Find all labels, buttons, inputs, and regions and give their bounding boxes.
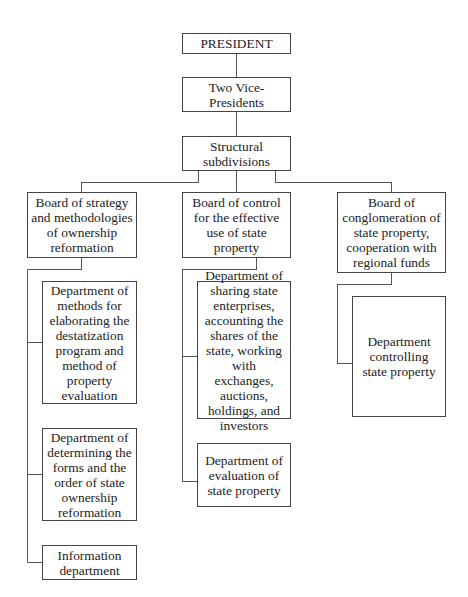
president-box: PRESIDENT bbox=[182, 33, 291, 54]
board-strategy-label: Board of strategy and methodologies of o… bbox=[31, 195, 133, 255]
dept-evaluation-box: Department of evaluation of state proper… bbox=[197, 443, 291, 507]
connector-to-dept-information bbox=[27, 562, 42, 563]
connector-structural-left-horizontal bbox=[81, 182, 199, 183]
dept-methods-box: Department of methods for elaborating th… bbox=[42, 281, 137, 404]
board-control-box: Board of control for the effective use o… bbox=[182, 192, 291, 258]
connector-to-dept-controlling bbox=[337, 363, 352, 364]
connector-to-board-strategy bbox=[81, 182, 82, 192]
structural-subdivisions-box: Structural subdivisions bbox=[182, 136, 291, 171]
connector-president-vp bbox=[236, 54, 237, 77]
connector-board-conglomeration-horizontal bbox=[337, 284, 392, 285]
connector-left-spine bbox=[27, 269, 28, 563]
president-label: PRESIDENT bbox=[200, 36, 272, 51]
connector-to-dept-forms bbox=[27, 474, 42, 475]
dept-information-label: Information department bbox=[46, 548, 133, 578]
connector-structural-right-horizontal bbox=[275, 182, 392, 183]
connector-to-board-conglomeration bbox=[391, 182, 392, 192]
board-conglomeration-box: Board of conglomeration of state propert… bbox=[337, 192, 446, 273]
connector-right-spine bbox=[337, 284, 338, 364]
dept-controlling-box: Department controlling state property bbox=[352, 296, 446, 417]
connector-to-dept-sharing bbox=[182, 356, 197, 357]
connector-to-dept-methods bbox=[27, 342, 42, 343]
dept-evaluation-label: Department of evaluation of state proper… bbox=[201, 453, 287, 498]
dept-sharing-box: Department of sharing state enterprises,… bbox=[197, 281, 291, 419]
dept-methods-label: Department of methods for elaborating th… bbox=[46, 283, 133, 403]
connector-board-strategy-horizontal bbox=[27, 269, 82, 270]
board-strategy-box: Board of strategy and methodologies of o… bbox=[27, 192, 137, 258]
structural-subdivisions-label: Structural subdivisions bbox=[186, 139, 287, 169]
connector-to-dept-evaluation bbox=[182, 481, 197, 482]
connector-to-board-control bbox=[236, 171, 237, 192]
dept-information-box: Information department bbox=[42, 545, 137, 580]
vice-presidents-label: Two Vice-Presidents bbox=[186, 80, 287, 110]
vice-presidents-box: Two Vice-Presidents bbox=[182, 77, 291, 112]
dept-forms-box: Department of determining the forms and … bbox=[42, 428, 137, 521]
board-control-label: Board of control for the effective use o… bbox=[186, 195, 287, 255]
dept-forms-label: Department of determining the forms and … bbox=[46, 430, 133, 520]
board-conglomeration-label: Board of conglomeration of state propert… bbox=[341, 195, 442, 270]
dept-sharing-label: Department of sharing state enterprises,… bbox=[201, 268, 287, 433]
connector-middle-spine bbox=[182, 269, 183, 482]
connector-vp-structural bbox=[236, 112, 237, 136]
dept-controlling-label: Department controlling state property bbox=[356, 334, 442, 379]
